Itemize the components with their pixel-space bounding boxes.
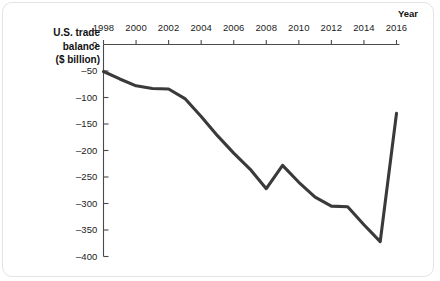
chart-figure: U.S. trade balance ($ billion) Year 1998…	[0, 0, 440, 281]
y-axis-ticks	[104, 71, 109, 257]
data-series-line	[104, 72, 397, 242]
y-axis	[104, 45, 109, 257]
x-axis-ticks	[104, 40, 397, 45]
x-axis	[104, 40, 400, 45]
chart-plot-area	[0, 0, 440, 281]
